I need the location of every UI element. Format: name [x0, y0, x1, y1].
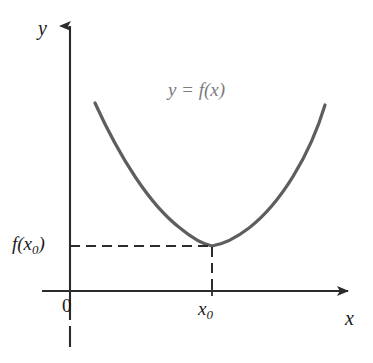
fx0-prefix: f(x: [12, 233, 32, 254]
fx0-suffix: ): [39, 233, 45, 254]
y-axis-label: y: [38, 18, 47, 38]
curve-equation-label: y = f(x): [168, 80, 225, 99]
equation-equals-sign: =: [181, 79, 194, 100]
equation-lhs: y: [168, 79, 176, 100]
equation-rhs-variable: x: [210, 79, 218, 100]
equation-rhs-suffix: ): [219, 79, 225, 100]
origin-label: 0: [62, 296, 72, 315]
function-curve: [95, 103, 325, 246]
x0-tick-label: x0: [198, 299, 213, 322]
equation-rhs-prefix: f(: [199, 79, 211, 100]
x-axis-label: x: [345, 308, 354, 328]
x0-subscript: 0: [206, 307, 212, 322]
function-graph-figure: y x 0 x0 f(x0) y = f(x): [0, 0, 373, 363]
graph-canvas: [0, 0, 373, 363]
fx0-value-label: f(x0): [12, 234, 45, 257]
